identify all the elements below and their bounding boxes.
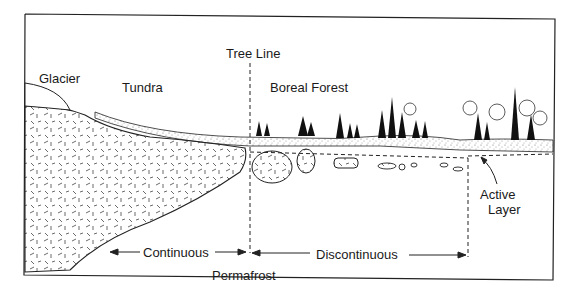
permafrost-patch (297, 149, 315, 173)
label-glacier: Glacier (39, 72, 80, 85)
glacier-shape (25, 83, 70, 110)
label-continuous: Continuous (143, 246, 209, 259)
permafrost-patch (252, 151, 292, 183)
label-tundra: Tundra (122, 81, 163, 94)
label-discontinuous: Discontinuous (316, 248, 398, 261)
label-active-layer-line2: Layer (488, 203, 521, 216)
permafrost-diagram (0, 0, 578, 308)
permafrost-patch (334, 158, 358, 168)
label-tree-line: Tree Line (226, 47, 280, 60)
label-active-layer-line1: Active (480, 188, 515, 201)
label-boreal-forest: Boreal Forest (270, 81, 348, 94)
label-permafrost: Permafrost (212, 269, 276, 282)
continuous-permafrost (25, 106, 246, 272)
